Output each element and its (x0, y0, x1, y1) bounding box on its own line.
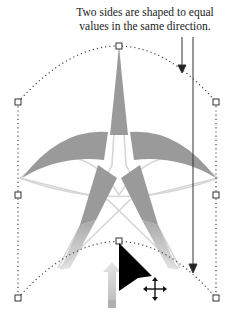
arrow-pointer-icon (119, 243, 152, 291)
handle-middle-left[interactable] (15, 192, 21, 198)
diagram-canvas (0, 0, 232, 324)
handle-top-center[interactable] (116, 43, 122, 49)
handle-bottom-right[interactable] (213, 295, 219, 301)
handle-bottom-left[interactable] (15, 295, 21, 301)
handle-middle-right[interactable] (213, 192, 219, 198)
shaped-star (22, 48, 216, 225)
handle-upper-left[interactable] (15, 99, 21, 105)
up-arrow-icon (103, 262, 121, 308)
move-cross-icon (143, 277, 167, 301)
handle-upper-right[interactable] (213, 99, 219, 105)
